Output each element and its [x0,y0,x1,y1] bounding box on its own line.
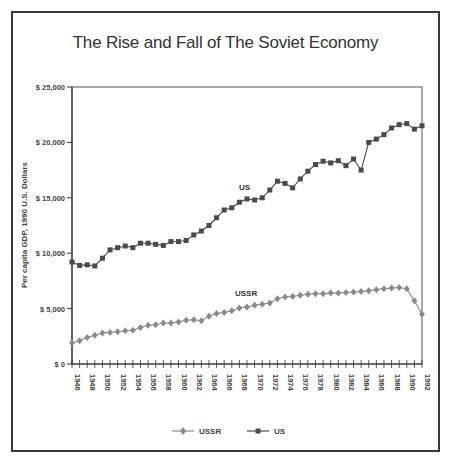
square-marker [321,159,326,164]
diamond-marker [160,320,166,327]
square-marker [328,160,333,165]
square-marker-icon [247,426,269,436]
x-tick-label: 1990 [408,374,417,391]
square-marker [245,196,250,201]
x-tick-label: 1946 [73,374,82,391]
square-marker [313,162,318,167]
x-tick-label: 1974 [286,374,295,392]
x-tick-label: 1984 [362,374,371,392]
square-marker [115,245,120,250]
line-chart-plot: $ 0$ 5,000$ 10,000$ 15,000$ 20,000$ 25,0… [0,0,451,465]
diamond-marker [115,328,121,335]
square-marker [336,158,341,163]
diamond-marker [137,324,143,331]
square-marker [351,157,356,162]
diamond-marker [320,290,326,297]
legend-item-us: US [247,426,285,436]
diamond-marker [153,321,159,328]
plot-area [72,87,422,364]
x-tick-label: 1962 [195,374,204,391]
diamond-marker [396,284,402,291]
square-marker [374,137,379,142]
legend-label-ussr: USSR [199,427,221,436]
square-marker [389,125,394,130]
square-marker [100,256,105,261]
square-marker [237,200,242,205]
square-marker [138,241,143,246]
diamond-marker [191,316,197,323]
diamond-marker [122,327,128,334]
square-marker [290,185,295,190]
square-marker [229,205,234,210]
x-tick-label: 1976 [301,374,310,391]
square-marker [130,245,135,250]
x-tick-label: 1986 [377,374,386,391]
x-tick-label: 1964 [210,374,219,392]
square-marker [381,132,386,137]
y-tick-label: $ 25,000 [36,83,65,92]
y-tick-label: $ 5,000 [40,305,65,314]
diamond-marker [130,327,136,334]
diamond-marker [312,290,318,297]
diamond-marker [214,310,220,317]
square-marker [176,239,181,244]
diamond-marker [297,292,303,299]
diamond-marker [358,288,364,295]
square-marker [92,263,97,268]
legend-item-ussr: USSR [172,426,221,436]
inline-label-us: US [239,183,251,192]
inline-label-ussr: USSR [235,289,257,298]
x-tick-label: 1980 [332,374,341,391]
diamond-marker [290,293,296,300]
x-tick-label: 1956 [149,374,158,391]
diamond-marker [381,285,387,292]
diamond-marker [107,329,113,336]
square-marker [420,123,425,128]
x-tick-label: 1988 [393,374,402,391]
x-tick-label: 1992 [423,374,432,391]
diamond-marker [221,309,227,316]
chart-legend: USSR US [0,426,451,440]
x-tick-label: 1950 [103,374,112,391]
diamond-marker [366,287,372,294]
square-marker [252,198,257,203]
x-tick-label: 1952 [119,374,128,391]
diamond-marker [229,307,235,314]
diamond-marker [176,318,182,325]
diamond-marker [92,332,98,339]
diamond-marker [84,334,90,341]
x-tick-label: 1970 [256,374,265,391]
square-marker [305,169,310,174]
x-tick-label: 1966 [225,374,234,391]
diamond-marker [206,313,212,320]
square-marker [260,195,265,200]
diamond-marker [419,311,425,318]
y-tick-label: $ 10,000 [36,249,65,258]
diamond-marker [198,317,204,324]
x-tick-label: 1954 [134,374,143,392]
diamond-marker [328,290,334,297]
x-tick-label: 1972 [271,374,280,391]
diamond-marker [282,293,288,300]
square-marker [206,223,211,228]
diamond-marker [305,291,311,298]
diamond-marker [389,285,395,292]
diamond-marker [236,305,242,312]
square-marker [168,239,173,244]
square-marker [366,140,371,145]
square-marker [404,121,409,126]
square-marker [199,229,204,234]
square-marker [412,127,417,132]
square-marker [298,176,303,181]
x-tick-label: 1958 [164,374,173,391]
square-marker [267,188,272,193]
diamond-marker [168,320,174,327]
diamond-marker [335,290,341,297]
square-marker [275,179,280,184]
square-marker [343,163,348,168]
square-marker [70,260,75,265]
square-marker [85,262,90,267]
x-tick-label: 1960 [180,374,189,391]
diamond-marker [351,288,357,295]
diamond-marker [244,303,250,310]
